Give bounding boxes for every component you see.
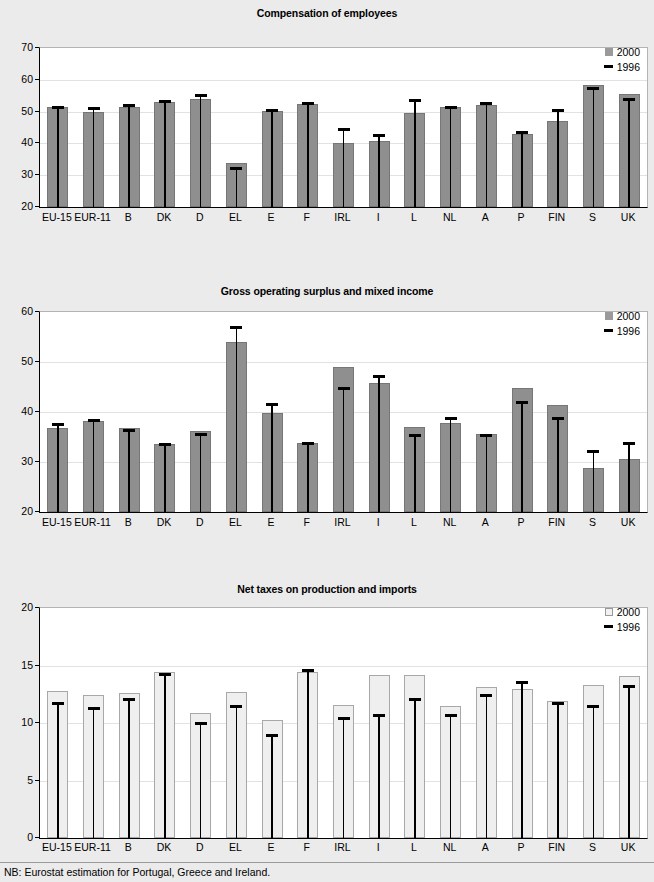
marker-stem-1996: [93, 108, 95, 207]
legend-item-1996: 1996: [570, 59, 640, 74]
legend-label-1996: 1996: [617, 325, 640, 337]
y-axis-tick-label: 50: [7, 356, 33, 366]
marker-cap-1996: [623, 685, 635, 688]
legend-item-1996: 1996: [570, 619, 640, 634]
marker-stem-1996: [486, 695, 488, 838]
marker-stem-1996: [521, 132, 523, 207]
marker-cap-1996: [230, 167, 242, 170]
marker-stem-1996: [307, 670, 309, 838]
y-axis-tick-mark: [35, 142, 39, 143]
legend-dash-icon-1996: [604, 65, 613, 68]
marker-stem-1996: [343, 718, 345, 838]
marker-cap-1996: [445, 417, 457, 420]
marker-stem-1996: [414, 435, 416, 512]
chart-legend: 20001996: [570, 308, 640, 338]
marker-cap-1996: [159, 443, 171, 446]
y-axis-tick-label: 40: [7, 406, 33, 416]
legend-item-2000: 2000: [570, 604, 640, 619]
marker-cap-1996: [338, 128, 350, 131]
legend-label-2000: 2000: [617, 46, 640, 58]
marker-stem-1996: [628, 99, 630, 207]
marker-stem-1996: [236, 168, 238, 207]
marker-stem-1996: [628, 443, 630, 512]
gridline: [40, 362, 647, 363]
marker-cap-1996: [195, 722, 207, 725]
marker-stem-1996: [200, 95, 202, 207]
legend-dash-icon-1996: [604, 329, 613, 332]
y-axis-tick-mark: [35, 665, 39, 666]
plot-area: [39, 47, 648, 208]
marker-stem-1996: [200, 723, 202, 838]
y-axis-tick-label: 20: [7, 602, 33, 612]
marker-stem-1996: [414, 100, 416, 207]
y-axis-tick-mark: [35, 722, 39, 723]
y-axis-tick-mark: [35, 780, 39, 781]
marker-stem-1996: [236, 327, 238, 512]
y-axis-tick-label: 20: [7, 201, 33, 211]
marker-cap-1996: [266, 403, 278, 406]
marker-cap-1996: [302, 669, 314, 672]
marker-cap-1996: [552, 702, 564, 705]
marker-stem-1996: [628, 686, 630, 838]
y-axis-tick-label: 30: [7, 456, 33, 466]
marker-stem-1996: [271, 735, 273, 839]
marker-cap-1996: [587, 450, 599, 453]
gridline: [40, 80, 647, 81]
marker-cap-1996: [123, 429, 135, 432]
marker-stem-1996: [307, 443, 309, 513]
legend-label-2000: 2000: [617, 606, 640, 618]
marker-stem-1996: [57, 107, 59, 207]
marker-cap-1996: [302, 442, 314, 445]
marker-stem-1996: [271, 110, 273, 207]
marker-cap-1996: [516, 131, 528, 134]
marker-cap-1996: [266, 734, 278, 737]
marker-stem-1996: [593, 88, 595, 207]
legend-swatch-icon-2000: [605, 312, 613, 320]
y-axis-tick-mark: [35, 461, 39, 462]
y-axis-tick-label: 10: [7, 717, 33, 727]
marker-cap-1996: [409, 99, 421, 102]
marker-cap-1996: [338, 387, 350, 390]
marker-cap-1996: [88, 419, 100, 422]
marker-stem-1996: [93, 708, 95, 838]
chart-legend: 20001996: [570, 44, 640, 74]
chart-legend: 20001996: [570, 604, 640, 634]
marker-stem-1996: [57, 703, 59, 838]
marker-cap-1996: [302, 102, 314, 105]
y-axis-tick-label: 40: [7, 137, 33, 147]
legend-item-1996: 1996: [570, 323, 640, 338]
marker-stem-1996: [57, 424, 59, 513]
gridline: [40, 666, 647, 667]
y-axis-tick-mark: [35, 607, 39, 608]
marker-cap-1996: [230, 326, 242, 329]
marker-cap-1996: [123, 698, 135, 701]
marker-stem-1996: [593, 451, 595, 512]
marker-stem-1996: [486, 103, 488, 207]
marker-cap-1996: [445, 106, 457, 109]
marker-cap-1996: [195, 94, 207, 97]
legend-label-2000: 2000: [617, 310, 640, 322]
marker-cap-1996: [623, 442, 635, 445]
chart-panel-gross-operating-surplus: Gross operating surplus and mixed income…: [0, 284, 654, 536]
marker-stem-1996: [93, 420, 95, 512]
marker-cap-1996: [409, 434, 421, 437]
marker-cap-1996: [52, 702, 64, 705]
marker-stem-1996: [486, 435, 488, 512]
y-axis-tick-mark: [35, 511, 39, 512]
marker-stem-1996: [164, 101, 166, 207]
legend-label-1996: 1996: [617, 621, 640, 633]
marker-cap-1996: [409, 698, 421, 701]
marker-cap-1996: [159, 100, 171, 103]
marker-stem-1996: [271, 404, 273, 513]
marker-cap-1996: [587, 705, 599, 708]
marker-cap-1996: [230, 705, 242, 708]
marker-cap-1996: [123, 104, 135, 107]
marker-cap-1996: [373, 714, 385, 717]
y-axis-tick-label: 70: [7, 42, 33, 52]
y-axis-tick-mark: [35, 837, 39, 838]
marker-cap-1996: [587, 87, 599, 90]
marker-stem-1996: [450, 715, 452, 838]
marker-cap-1996: [516, 401, 528, 404]
marker-cap-1996: [88, 707, 100, 710]
legend-swatch-icon-2000: [605, 48, 613, 56]
